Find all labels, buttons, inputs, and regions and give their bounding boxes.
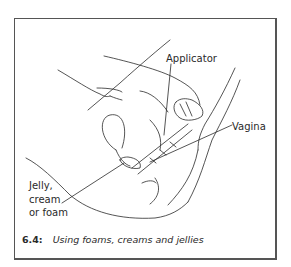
internal-curve bbox=[150, 120, 161, 150]
figure-number: 6.4: bbox=[22, 234, 43, 245]
figure-caption-text: Using foams, creams and jellies bbox=[53, 234, 204, 245]
thumb-detail bbox=[180, 102, 192, 116]
vagina-label: Vagina bbox=[232, 120, 266, 133]
palm-line bbox=[140, 91, 168, 112]
figure-caption: 6.4:Using foams, creams and jellies bbox=[22, 234, 204, 245]
applicator-label: Applicator bbox=[166, 52, 217, 65]
arm-lower-line bbox=[58, 70, 110, 97]
body-curve-3 bbox=[168, 150, 198, 205]
jelly-leader-line bbox=[62, 163, 124, 203]
applicator-tube-top bbox=[132, 124, 188, 168]
applicator-tube-bottom bbox=[138, 130, 192, 174]
jelly-label-line-2: cream bbox=[29, 193, 68, 207]
jelly-label-line-1: Jelly, bbox=[29, 179, 68, 193]
contraceptive-application-illustration bbox=[0, 0, 291, 267]
internal-detail bbox=[142, 178, 159, 204]
jelly-deposit bbox=[120, 157, 140, 169]
thumb bbox=[174, 99, 203, 120]
finger-line-2 bbox=[110, 96, 122, 100]
jelly-label-line-3: or foam bbox=[29, 206, 68, 220]
uterus bbox=[102, 115, 124, 150]
jelly-cream-foam-label: Jelly, cream or foam bbox=[29, 179, 68, 220]
